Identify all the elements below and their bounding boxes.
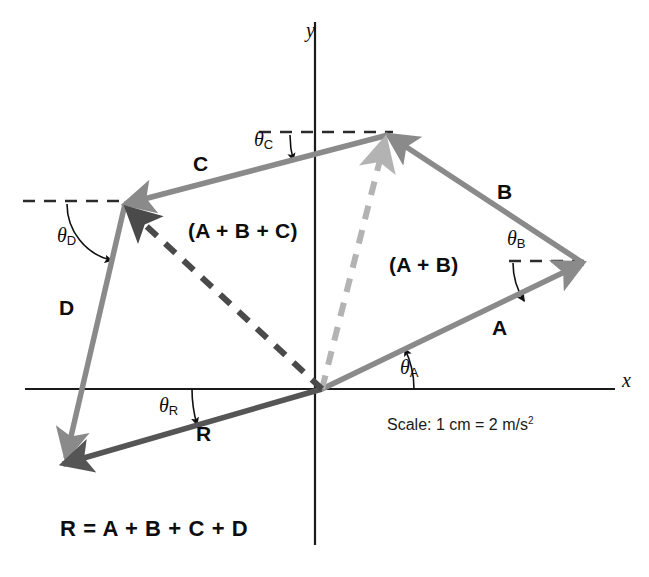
theta-subscript: A xyxy=(410,365,419,380)
vector-label-D: D xyxy=(59,297,74,318)
vector-A xyxy=(322,263,583,389)
y-axis-label: y xyxy=(306,20,315,40)
angle-arc-theta-C xyxy=(290,135,293,160)
theta-glyph: θ xyxy=(254,128,264,150)
theta-subscript: R xyxy=(169,403,178,418)
theta-subscript: B xyxy=(517,236,526,251)
x-axis-label: x xyxy=(622,370,631,390)
scale-note-exponent: 2 xyxy=(528,415,534,426)
angle-arc-theta-R xyxy=(192,389,197,425)
theta-glyph: θ xyxy=(57,224,67,246)
resultant-equation: R = A + B + C + D xyxy=(60,518,248,540)
vector-label-B: B xyxy=(497,181,512,202)
vector-diagram-figure: y x ABCDR(A + B)(A + B + C) θAθBθCθDθR S… xyxy=(0,0,649,577)
angle-label-theta-A: θA xyxy=(400,357,419,379)
vector-label-A-plus-B: (A + B) xyxy=(389,254,459,275)
vector-label-C: C xyxy=(193,153,208,174)
theta-glyph: θ xyxy=(400,356,410,378)
vector-A-plus-B xyxy=(322,140,385,389)
scale-note: Scale: 1 cm = 2 m/s2 xyxy=(387,416,534,433)
vector-diagram-canvas xyxy=(0,0,649,577)
angle-label-theta-C: θC xyxy=(254,129,273,151)
angle-label-theta-D: θD xyxy=(57,225,76,247)
theta-subscript: C xyxy=(264,137,273,152)
vector-B xyxy=(388,135,583,263)
angle-label-theta-B: θB xyxy=(507,228,526,250)
vector-label-A: A xyxy=(492,317,507,338)
axis-group xyxy=(25,22,615,545)
angle-label-theta-R: θR xyxy=(159,395,178,417)
theta-glyph: θ xyxy=(159,394,169,416)
scale-note-text: Scale: 1 cm = 2 m/s xyxy=(387,416,528,433)
vector-label-A-plus-B-plus-C: (A + B + C) xyxy=(188,220,298,241)
theta-glyph: θ xyxy=(507,227,517,249)
theta-subscript: D xyxy=(67,233,76,248)
vector-label-R: R xyxy=(196,423,211,444)
